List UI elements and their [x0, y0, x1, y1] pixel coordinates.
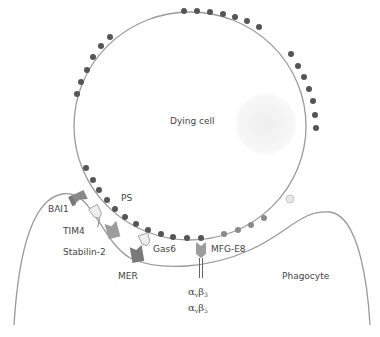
dying-cell-label: Dying cell: [170, 116, 215, 126]
mer-label: MER: [118, 271, 138, 281]
gas6-label: Gas6: [153, 244, 176, 254]
stabilin2-label: Stabilin-2: [63, 247, 106, 257]
mfge8-integrin-receptor: [196, 242, 206, 278]
gas6-bridge: [138, 233, 152, 248]
bai1-receptor: [68, 190, 88, 206]
nucleus: [236, 94, 296, 154]
bai1-label: BAI1: [48, 204, 69, 214]
phagocyte-label: Phagocyte: [282, 271, 330, 281]
mer-receptor: [130, 245, 145, 263]
apoptotic-cell-clearance-diagram: Dying cell Phagocyte PS BAI1 TIM4 Stabil…: [0, 0, 380, 337]
integrin-avb3-label: αvβ3: [188, 286, 208, 298]
pale-vesicle: [286, 195, 294, 203]
stabilin2-receptor: [105, 221, 121, 240]
mfge8-label: MFG-E8: [211, 244, 246, 254]
integrin-avb5-label: αvβ5: [188, 302, 208, 314]
tim4-receptor: [88, 204, 108, 227]
ps-label: PS: [121, 193, 132, 203]
tim4-label: TIM4: [62, 226, 85, 236]
